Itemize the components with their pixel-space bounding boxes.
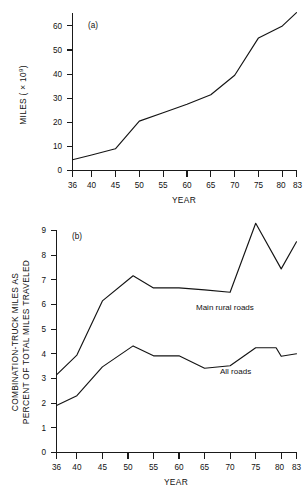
panel-b-xtick-50: 50 xyxy=(123,463,133,472)
panel-a-ytick-60: 60 xyxy=(53,22,63,31)
panel-b-ytick-0: 0 xyxy=(41,448,46,457)
panel-a-xtick-70: 70 xyxy=(230,181,240,190)
panel-b-x-ticklabels: 36 40 45 50 55 60 65 70 75 80 83 xyxy=(52,463,302,472)
panel-a-ylabel-base: 10 xyxy=(18,72,28,85)
panel-a-xtick-75: 75 xyxy=(254,181,264,190)
panel-a-xtick-40: 40 xyxy=(87,181,97,190)
panel-b-xtick-60: 60 xyxy=(174,463,184,472)
panel-b-xtick-40: 40 xyxy=(72,463,82,472)
panel-a-ytick-10: 10 xyxy=(53,142,63,151)
panel-b-ytick-4: 4 xyxy=(41,350,46,359)
panel-b-y-ticks xyxy=(51,231,57,453)
panel-a-y-ticks xyxy=(67,26,73,171)
series-label-main-rural-roads: Main rural roads xyxy=(196,303,254,312)
figure-container: 0 10 20 30 40 50 60 xyxy=(0,0,306,495)
svg-text:PERCENT OF TOTAL MILES TRAVELE: PERCENT OF TOTAL MILES TRAVELED xyxy=(21,260,31,424)
panel-a-ytick-50: 50 xyxy=(53,46,63,55)
panel-a-xtick-50: 50 xyxy=(135,181,145,190)
panel-a-x-axis-title: YEAR xyxy=(172,195,196,205)
panel-a-xtick-83: 83 xyxy=(293,181,303,190)
panel-b-y-axis-title-line2: PERCENT OF TOTAL MILES TRAVELED xyxy=(21,260,31,424)
panel-b-ytick-9: 9 xyxy=(41,226,46,235)
panel-a-y-axis-title: MILES ( × 109) xyxy=(18,65,28,124)
panel-b-chart: 0 1 2 3 4 5 6 7 8 9 xyxy=(0,222,306,495)
panel-a-ylabel-close: ) xyxy=(18,65,28,68)
panel-b-x-axis-title: YEAR xyxy=(164,477,188,487)
panel-b-xtick-45: 45 xyxy=(98,463,108,472)
panel-b-xtick-36: 36 xyxy=(52,463,62,472)
panel-b-ytick-3: 3 xyxy=(41,374,46,383)
panel-b-svg: 0 1 2 3 4 5 6 7 8 9 xyxy=(0,222,306,495)
panel-b-xtick-70: 70 xyxy=(226,463,236,472)
panel-a-xtick-36: 36 xyxy=(68,181,78,190)
panel-a-ytick-40: 40 xyxy=(53,70,63,79)
panel-b-x-ticks xyxy=(57,453,297,459)
panel-b-label: (b) xyxy=(72,232,82,241)
panel-b-ytick-2: 2 xyxy=(41,399,46,408)
panel-b-y-axis-title-line1: COMBINATION-TRUCK MILES AS xyxy=(10,273,20,412)
panel-a-svg: 0 10 20 30 40 50 60 xyxy=(0,0,306,215)
panel-a-series-line xyxy=(73,13,297,160)
panel-a-chart: 0 10 20 30 40 50 60 xyxy=(0,0,306,215)
panel-b-ytick-8: 8 xyxy=(41,251,46,260)
panel-b-ytick-5: 5 xyxy=(41,325,46,334)
panel-a-ylabel-main: MILES ( xyxy=(18,90,28,125)
panel-b-xtick-83: 83 xyxy=(292,463,302,472)
panel-b-xtick-75: 75 xyxy=(251,463,261,472)
panel-b-xtick-55: 55 xyxy=(149,463,159,472)
panel-b-xtick-65: 65 xyxy=(200,463,210,472)
svg-text:COMBINATION-TRUCK MILES AS: COMBINATION-TRUCK MILES AS xyxy=(10,273,20,412)
panel-a-xtick-55: 55 xyxy=(159,181,169,190)
panel-a-ytick-20: 20 xyxy=(53,118,63,127)
panel-a-label: (a) xyxy=(88,21,98,30)
panel-a-xtick-80: 80 xyxy=(276,181,286,190)
panel-a-ytick-0: 0 xyxy=(57,166,62,175)
panel-b-ytick-6: 6 xyxy=(41,300,46,309)
svg-text:MILES ( × 109): MILES ( × 109) xyxy=(18,65,28,124)
series-label-all-roads: All roads xyxy=(220,367,251,376)
panel-a-xtick-45: 45 xyxy=(111,181,121,190)
panel-b-series-all-roads xyxy=(57,346,297,406)
panel-a-ytick-30: 30 xyxy=(53,94,63,103)
panel-a-x-ticks xyxy=(73,171,297,177)
panel-a-xtick-65: 65 xyxy=(206,181,216,190)
panel-b-ytick-1: 1 xyxy=(41,424,46,433)
panel-b-series-main-rural-roads xyxy=(57,223,297,374)
panel-a-xtick-60: 60 xyxy=(182,181,192,190)
panel-b-xtick-80: 80 xyxy=(275,463,285,472)
panel-b-y-ticklabels: 0 1 2 3 4 5 6 7 8 9 xyxy=(41,226,46,457)
panel-a-x-ticklabels: 36 40 45 50 55 60 65 70 75 80 83 xyxy=(68,181,303,190)
panel-a-y-ticklabels: 0 10 20 30 40 50 60 xyxy=(53,22,63,176)
panel-b-ytick-7: 7 xyxy=(41,276,46,285)
